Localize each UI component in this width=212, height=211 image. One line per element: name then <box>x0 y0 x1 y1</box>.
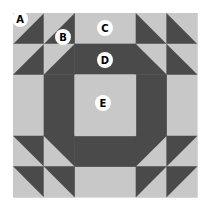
label-text: E <box>100 98 107 109</box>
piece-d-left <box>44 74 75 136</box>
label-text: A <box>16 14 24 25</box>
label-c: C <box>97 20 113 36</box>
label-a: A <box>12 11 28 27</box>
label-b: B <box>55 29 71 45</box>
label-text: B <box>59 32 67 43</box>
piece-d-bottom <box>74 136 136 167</box>
piece-d-right <box>136 74 167 136</box>
label-text: D <box>101 55 109 66</box>
label-e: E <box>95 95 111 111</box>
label-text: C <box>101 23 108 34</box>
quilt-block-diagram: ABCDE <box>0 0 212 211</box>
label-d: D <box>97 52 113 68</box>
